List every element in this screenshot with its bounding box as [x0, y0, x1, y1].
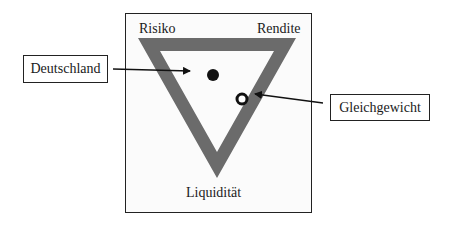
triangle-band [138, 38, 296, 178]
callout-deutschland: Deutschland [23, 55, 108, 83]
callout-gleichgewicht: Gleichgewicht [330, 94, 430, 121]
deutschland-arrow [113, 69, 190, 71]
deutschland-marker [207, 69, 219, 81]
callout-gleichgewicht-label: Gleichgewicht [339, 100, 421, 116]
gleichgewicht-marker [237, 94, 247, 104]
callout-deutschland-label: Deutschland [31, 61, 101, 77]
corner-label-liquiditaet: Liquidität [186, 185, 241, 201]
gleichgewicht-arrow [255, 94, 323, 103]
corner-label-rendite: Rendite [257, 21, 301, 37]
corner-label-risiko: Risiko [139, 21, 176, 37]
